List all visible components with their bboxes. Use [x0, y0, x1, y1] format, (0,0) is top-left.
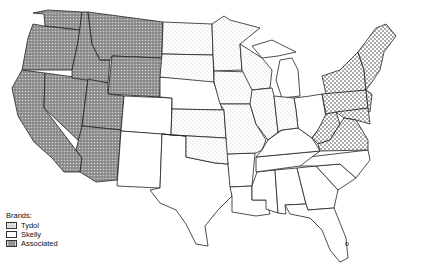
state-michigan-up [252, 40, 296, 58]
state-michigan [276, 58, 300, 98]
legend-item-tydol: Tydol [6, 221, 58, 230]
state-oregon [22, 24, 80, 70]
map-legend: Brands: Tydol Skelly Associated [6, 211, 58, 248]
us-brand-map [0, 0, 422, 274]
state-indiana [274, 96, 298, 132]
state-kansas [171, 109, 226, 138]
legend-title: Brands: [6, 211, 58, 220]
state-colorado [121, 96, 172, 135]
state-north-dakota [162, 22, 213, 55]
state-new-york [322, 52, 366, 94]
skelly-swatch-icon [6, 231, 17, 238]
state-arkansas [226, 153, 255, 187]
legend-label: Associated [21, 239, 58, 248]
associated-swatch-icon [6, 240, 17, 247]
state-arizona [76, 126, 121, 182]
state-south-dakota [160, 54, 214, 82]
state-florida [285, 204, 348, 262]
state-wyoming [108, 56, 162, 97]
legend-item-skelly: Skelly [6, 230, 58, 239]
state-new-mexico [117, 131, 162, 188]
legend-label: Skelly [21, 230, 41, 239]
legend-label: Tydol [21, 221, 39, 230]
state-montana [88, 12, 163, 60]
legend-item-associated: Associated [6, 239, 58, 248]
tydol-swatch-icon [6, 222, 17, 229]
region-tydol [312, 24, 396, 151]
